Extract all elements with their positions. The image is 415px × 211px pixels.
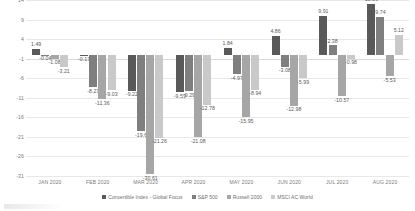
bar[interactable] (60, 55, 68, 68)
bar-group-bars: -9.22-19.6-30.61-21.26 (122, 0, 170, 176)
bar-slot: 9.91 (319, 0, 327, 176)
bar-value-label: 4.86 (270, 28, 280, 34)
legend-swatch-icon (271, 195, 275, 199)
x-axis-tick: JUL 2020 (313, 176, 361, 190)
bar-value-label: 5.12 (394, 27, 404, 33)
x-axis-tick: MAY 2020 (218, 176, 266, 190)
bar-value-label: 1.84 (223, 40, 233, 46)
legend-label: MSCI AC World (277, 194, 313, 200)
legend-item[interactable]: Convertible Index - Global Focus (102, 194, 182, 200)
bar[interactable] (329, 45, 337, 54)
bar[interactable] (376, 17, 384, 55)
bar-slot: -15.95 (242, 0, 250, 176)
bar-slot: -3.08 (281, 0, 289, 176)
bar-value-label: 9.91 (318, 8, 328, 14)
bar-slot: 13.06 (367, 0, 375, 176)
bar-slot: -12.98 (290, 0, 298, 176)
bar-group-bars: 1.49-0.04-1.08-3.21 (26, 0, 74, 176)
x-axis-tick: JUN 2020 (265, 176, 313, 190)
bar[interactable] (233, 55, 241, 74)
bar-group-bars: 13.069.74-5.535.12 (361, 0, 409, 176)
legend-swatch-icon (102, 195, 106, 199)
bar[interactable] (89, 55, 97, 87)
bar[interactable] (203, 55, 211, 105)
x-axis-tick: JAN 2020 (26, 176, 74, 190)
bar-slot: 1.49 (32, 0, 40, 176)
bar-value-label: 9.74 (375, 9, 385, 15)
bar-value-label: -8.94 (249, 90, 261, 96)
y-axis-tick: -11 (17, 95, 24, 101)
bar-group: 4.86-3.08-12.98-5.99 (265, 0, 313, 176)
bar[interactable] (146, 55, 154, 175)
bar-slot: 2.38 (329, 0, 337, 176)
y-axis: 1494-1-6-11-16-21-26-31 (0, 0, 26, 176)
bar-slot: -8.94 (251, 0, 259, 176)
bar[interactable] (281, 55, 289, 67)
legend-item[interactable]: MSCI AC World (271, 194, 313, 200)
bar[interactable] (347, 55, 355, 59)
y-axis-tick: -6 (19, 75, 24, 81)
bar-value-label: -3.21 (58, 68, 70, 74)
y-axis-tick: -21 (16, 134, 24, 140)
y-axis-tick: 14 (18, 0, 24, 3)
bar[interactable] (176, 55, 184, 92)
plot-canvas: 1.49-0.04-1.08-3.21-0.17-8.27-11.36-9.03… (26, 0, 409, 176)
bar-slot: -9.53 (176, 0, 184, 176)
bar-slot: -9.22 (128, 0, 136, 176)
y-axis-tick: -16 (16, 114, 24, 120)
bar-value-label: -12.78 (200, 105, 215, 111)
bar-group: 1.49-0.04-1.08-3.21 (26, 0, 74, 176)
bar[interactable] (299, 55, 307, 78)
bar[interactable] (51, 55, 59, 59)
bar[interactable] (155, 55, 163, 138)
x-axis-tick: FEB 2020 (74, 176, 122, 190)
bar-slot: 5.12 (395, 0, 403, 176)
bar-group-bars: 4.86-3.08-12.98-5.99 (265, 0, 313, 176)
bar[interactable] (128, 55, 136, 91)
chart-legend: Convertible Index - Global FocusS&P 500R… (0, 190, 415, 204)
bar-slot: -12.78 (203, 0, 211, 176)
bar-group-bars: -9.53-9.29-21.08-12.78 (170, 0, 218, 176)
y-axis-tick: -1 (19, 56, 24, 62)
legend-swatch-icon (192, 195, 196, 199)
x-axis: JAN 2020FEB 2020MAR 2020APR 2020MAY 2020… (26, 176, 409, 190)
bar-group-bars: 1.84-4.97-15.95-8.94 (218, 0, 266, 176)
bar[interactable] (224, 48, 232, 55)
bar-group: 1.84-4.97-15.95-8.94 (218, 0, 266, 176)
bar-slot: -21.26 (155, 0, 163, 176)
plot-area: 1494-1-6-11-16-21-26-31 1.49-0.04-1.08-3… (0, 0, 415, 176)
bar-group: 13.069.74-5.535.12 (361, 0, 409, 176)
legend-label: Convertible Index - Global Focus (108, 194, 182, 200)
bar-slot: -5.99 (299, 0, 307, 176)
bar-value-label: -21.26 (152, 138, 167, 144)
bar[interactable] (32, 49, 40, 55)
bar[interactable] (272, 36, 280, 55)
bar-slot: -3.21 (60, 0, 68, 176)
x-axis-tick: AUG 2020 (361, 176, 409, 190)
bar[interactable] (185, 55, 193, 91)
bar-value-label: -9.03 (106, 91, 118, 97)
bar-slot: -11.36 (98, 0, 106, 176)
footer-artifact (4, 204, 64, 209)
bar-value-label: -5.99 (297, 79, 309, 85)
bar[interactable] (242, 55, 250, 117)
bar-slot: -5.53 (386, 0, 394, 176)
legend-swatch-icon (227, 195, 231, 199)
bar[interactable] (395, 35, 403, 55)
bar[interactable] (386, 55, 394, 77)
bar-group: 9.912.38-10.57-0.98 (313, 0, 361, 176)
bar-slot: -0.98 (347, 0, 355, 176)
bar[interactable] (137, 55, 145, 132)
bar[interactable] (251, 55, 259, 90)
bar-slot: 1.84 (224, 0, 232, 176)
bar[interactable] (319, 16, 327, 55)
bar[interactable] (194, 55, 202, 137)
legend-item[interactable]: S&P 500 (192, 194, 218, 200)
bar-slot: -9.29 (185, 0, 193, 176)
bar-value-label: -0.98 (345, 59, 357, 65)
bar-value-label: 2.38 (327, 38, 337, 44)
bar[interactable] (367, 4, 375, 55)
legend-item[interactable]: Russell 2000 (227, 194, 263, 200)
bar-slot: 4.86 (272, 0, 280, 176)
bar[interactable] (108, 55, 116, 90)
